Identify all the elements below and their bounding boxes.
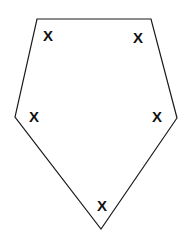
x-mark-icon-right: X (152, 109, 162, 124)
x-mark-icon-bottom: X (97, 198, 107, 213)
x-mark-icon-top-right: X (133, 30, 143, 45)
x-mark-icon-top-left: X (43, 28, 53, 43)
figure-canvas: X X X X X (0, 0, 189, 245)
x-mark-icon-left: X (29, 109, 39, 124)
